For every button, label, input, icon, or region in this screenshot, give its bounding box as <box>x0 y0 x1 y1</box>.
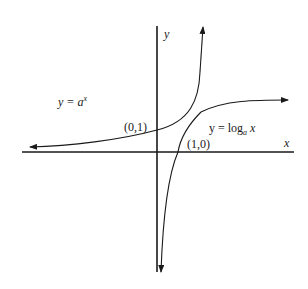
logarithm-label: y = loga x <box>209 122 255 137</box>
y-axis-label: y <box>164 28 169 40</box>
x-axis-label: x <box>284 137 289 149</box>
exponential-label: y = ax <box>58 95 87 108</box>
logarithm-curve <box>201 100 288 112</box>
exp-exponent: x <box>83 94 87 103</box>
exponential-curve-upper <box>200 27 203 72</box>
logarithm-curve-lower <box>161 112 201 272</box>
log-arg: x <box>247 121 255 135</box>
point-1-0-label: (1,0) <box>187 138 210 150</box>
exponential-curve <box>30 72 200 147</box>
log-lhs: y = log <box>209 121 243 135</box>
point-0-1-label: (0,1) <box>124 121 147 133</box>
exp-lhs: y = <box>58 95 77 109</box>
graph-svg <box>0 0 308 289</box>
diagram-canvas: y x y = ax (0,1) y = loga x (1,0) <box>0 0 308 289</box>
